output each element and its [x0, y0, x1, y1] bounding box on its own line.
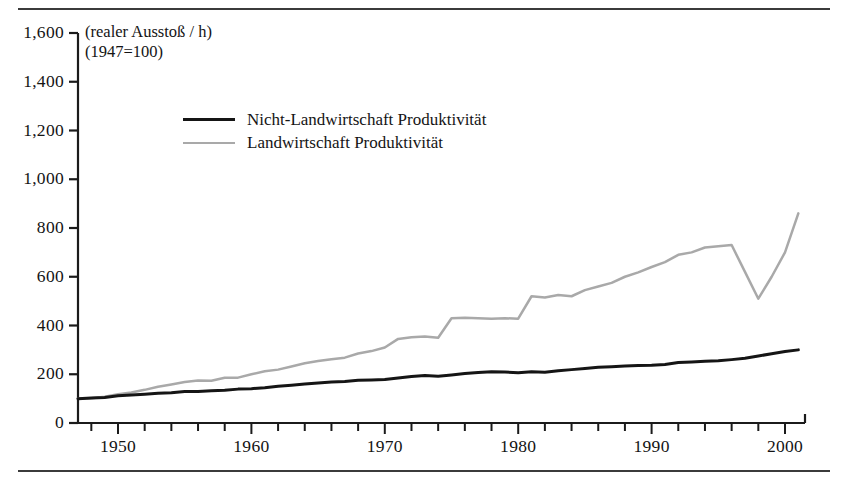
- x-axis-tick-label: 1960: [211, 436, 291, 457]
- plot-area: [0, 0, 847, 489]
- y-axis-tick-label: 800: [37, 217, 64, 238]
- x-axis-tick-label: 1980: [478, 436, 558, 457]
- y-axis-tick-label: 1,000: [23, 168, 64, 189]
- y-axis-tick-label: 1,200: [23, 120, 64, 141]
- series-line-nonfarm: [78, 350, 798, 399]
- y-axis-tick-label: 1,400: [23, 71, 64, 92]
- x-axis-tick-label: 2000: [745, 436, 825, 457]
- x-axis-tick-label: 1970: [345, 436, 425, 457]
- x-axis-tick-label: 1990: [612, 436, 692, 457]
- y-axis-tick-label: 400: [37, 315, 64, 336]
- y-axis-tick-label: 600: [37, 266, 64, 287]
- y-axis-tick-label: 1,600: [23, 22, 64, 43]
- x-axis-tick-label: 1950: [78, 436, 158, 457]
- series-line-farm: [78, 213, 798, 398]
- y-axis-tick-label: 0: [55, 412, 64, 433]
- y-axis-tick-label: 200: [37, 363, 64, 384]
- figure-container: (realer Ausstoß / h) (1947=100) Nicht-La…: [0, 0, 847, 489]
